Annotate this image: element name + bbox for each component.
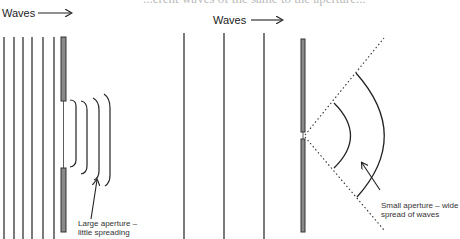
- right-spread-cone: [305, 38, 384, 230]
- right-incident-wavefronts: [184, 33, 264, 239]
- diffraction-diagram: ...erent waves of the same to the apertu…: [0, 0, 460, 239]
- left-incident-wavefronts: [4, 37, 54, 239]
- right-barrier: [301, 39, 305, 232]
- diagram-graphics: [0, 0, 460, 239]
- left-transmitted-wavefronts: [70, 94, 110, 186]
- left-barrier: [61, 37, 66, 232]
- left-pointer-arrow-icon: [91, 180, 97, 219]
- right-transmitted-wavefronts: [334, 73, 384, 197]
